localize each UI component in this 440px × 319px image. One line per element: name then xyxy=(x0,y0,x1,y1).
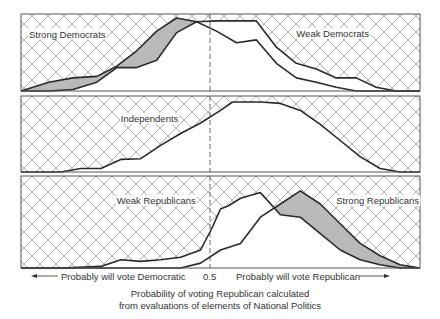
series-label-strong-democrats: Strong Democrats xyxy=(29,29,106,40)
panel-democrats xyxy=(21,14,420,91)
axis-right-label: Probably will vote Republican xyxy=(236,271,360,282)
series-label-weak-democrats: Weak Democrats xyxy=(296,28,369,39)
series-label-weak-republicans: Weak Republicans xyxy=(117,195,196,206)
x-axis-annotations: Probably will vote Democratic 0.5 Probab… xyxy=(31,271,390,282)
series-label-independents: Independents xyxy=(121,113,179,124)
x-axis-title-line1: Probability of voting Republican calcula… xyxy=(0,288,440,300)
right-arrow-icon xyxy=(384,274,390,278)
panel-republicans xyxy=(21,176,420,268)
series-label-strong-republicans: Strong Republicans xyxy=(336,195,419,206)
panel-independents xyxy=(21,96,420,172)
chart-figure: Strong DemocratsWeak DemocratsIndependen… xyxy=(0,0,440,319)
left-arrow-icon xyxy=(31,274,37,278)
axis-left-label: Probably will vote Democratic xyxy=(61,271,186,282)
axis-center-label: 0.5 xyxy=(203,271,216,282)
x-axis-title-line2: from evaluations of elements of National… xyxy=(0,300,440,312)
